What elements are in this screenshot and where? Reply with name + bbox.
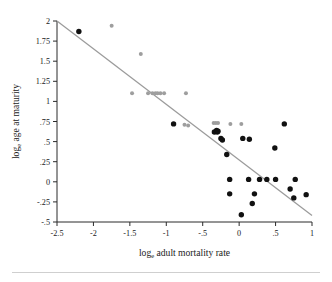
data-point (303, 192, 308, 197)
data-point (224, 152, 229, 157)
data-point (110, 24, 114, 28)
data-point (291, 195, 296, 200)
data-point (171, 121, 176, 126)
x-tick-label: -2 (90, 229, 97, 238)
y-tick-label: .25 (40, 158, 50, 167)
data-point (272, 145, 277, 150)
data-point (287, 186, 292, 191)
data-point (227, 191, 232, 196)
y-tick-label: 1.25 (36, 77, 50, 86)
data-point (162, 91, 166, 95)
data-point (273, 177, 278, 182)
data-point (239, 122, 243, 126)
data-point (158, 91, 162, 95)
x-tick-label: -1.5 (123, 229, 136, 238)
data-point (282, 121, 287, 126)
data-point (239, 212, 244, 217)
y-tick-label: -.5 (41, 218, 50, 227)
y-tick-label: 1.5 (40, 57, 50, 66)
data-point (139, 52, 143, 56)
x-tick-label: 1 (310, 229, 314, 238)
data-point (227, 177, 232, 182)
data-point (240, 136, 245, 141)
data-point (252, 191, 257, 196)
x-tick-label: 0 (237, 229, 241, 238)
data-point (257, 177, 262, 182)
scatter-plot-figure: -.5-.250.25.5.7511.251.51.752-2.5-2-1.5-… (0, 0, 332, 282)
data-point (250, 201, 255, 206)
y-tick-label: 1 (46, 97, 50, 106)
data-point (183, 123, 187, 127)
data-point (216, 121, 220, 125)
data-point (228, 122, 232, 126)
chart-canvas: -.5-.250.25.5.7511.251.51.752-2.5-2-1.5-… (0, 0, 332, 282)
data-point (293, 177, 298, 182)
data-point (76, 29, 81, 34)
data-point (146, 91, 150, 95)
data-point (130, 91, 134, 95)
footer-divider (12, 272, 320, 273)
data-point (247, 136, 252, 141)
x-tick-label: -1 (163, 229, 170, 238)
y-tick-label: .5 (44, 138, 50, 147)
y-axis-title: loge age at maturity (10, 84, 22, 159)
data-point (246, 177, 251, 182)
y-tick-label: .75 (40, 118, 50, 127)
y-tick-label: 0 (46, 178, 50, 187)
data-point (186, 124, 190, 128)
y-tick-label: -.25 (37, 198, 50, 207)
data-point (220, 137, 225, 142)
y-tick-label: 1.75 (36, 37, 50, 46)
regression-line (57, 21, 312, 216)
x-tick-label: -2.5 (51, 229, 64, 238)
series-filled-circle (76, 29, 309, 218)
axis-frame (57, 21, 312, 222)
x-tick-label: -.5 (198, 229, 207, 238)
data-point (184, 91, 188, 95)
y-tick-label: 2 (46, 17, 50, 26)
x-tick-label: .5 (273, 229, 279, 238)
y-axis-title-text: loge age at maturity (10, 84, 22, 159)
x-axis-title: loge adult mortality rate (139, 247, 230, 259)
data-point (264, 177, 269, 182)
data-point (215, 128, 220, 133)
